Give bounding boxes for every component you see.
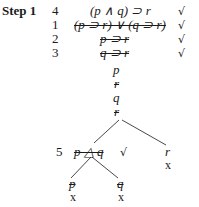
step-label: Step 1: [2, 3, 36, 19]
row-number: 3: [52, 45, 59, 61]
closed-branch-marker: x: [165, 158, 171, 173]
check-mark-icon: √: [178, 47, 185, 60]
row-number: 5: [56, 144, 63, 160]
check-mark-icon: √: [120, 146, 127, 159]
closed-branch-marker: x: [118, 190, 124, 205]
check-mark-icon: √: [178, 5, 185, 18]
formula-row-3: q ⊃ r: [100, 45, 129, 61]
check-mark-icon: √: [178, 19, 185, 32]
closed-branch-marker: x: [70, 190, 76, 205]
formula-row-5: p △ q: [74, 144, 104, 160]
trunk-node: r: [114, 104, 119, 120]
check-mark-icon: √: [178, 33, 185, 46]
